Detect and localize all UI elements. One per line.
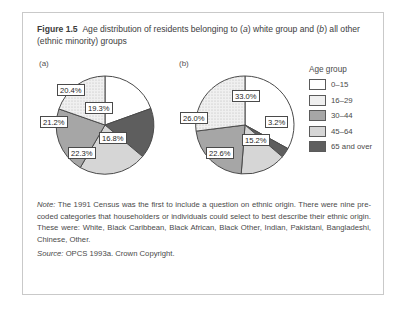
pie-b-value-65-over: 3.2%	[265, 116, 288, 128]
figure-number: Figure 1.5	[37, 24, 78, 34]
legend-item-45-64: 45–64	[309, 126, 385, 137]
pie-a-value-0-15: 19.3%	[85, 102, 113, 114]
note-text: The 1991 Census was the first to include…	[37, 200, 371, 244]
legend-title: Age group	[309, 65, 385, 74]
legend-swatch-16-29	[309, 95, 326, 106]
legend-item-16-29: 16–29	[309, 95, 385, 106]
pie-b-value-30-44: 22.6%	[206, 147, 234, 159]
figure-box: Figure 1.5 Age distribution of residents…	[22, 12, 384, 295]
figure-title-part1: Age distribution of residents belonging …	[82, 24, 243, 34]
pie-a-value-45-64: 22.3%	[68, 147, 96, 159]
pie-a-value-65-over: 16.8%	[99, 132, 127, 144]
figure-source: Source: OPCS 1993a. Crown Copyright.	[37, 248, 371, 260]
source-text: OPCS 1993a. Crown Copyright.	[64, 249, 175, 258]
legend-label-45-64: 45–64	[331, 127, 353, 136]
panel-label-b: (b)	[179, 59, 189, 68]
legend-swatch-0-15	[309, 79, 326, 90]
legend-swatch-45-64	[309, 126, 326, 137]
pie-a-value-16-29: 20.4%	[57, 84, 85, 96]
legend-item-0-15: 0–15	[309, 79, 385, 90]
legend-swatch-30-44	[309, 110, 326, 121]
legend-swatch-65-over	[309, 141, 326, 152]
legend-label-0-15: 0–15	[331, 80, 348, 89]
pie-a-value-30-44: 21.2%	[40, 116, 68, 128]
legend-item-30-44: 30–44	[309, 110, 385, 121]
note-prefix: Note:	[37, 200, 55, 209]
source-prefix: Source:	[37, 249, 64, 258]
figure-note: Note: The 1991 Census was the first to i…	[37, 199, 371, 245]
pie-b-value-16-29: 26.0%	[180, 112, 208, 124]
pie-b-value-45-64: 15.2%	[242, 134, 270, 146]
pie-b-value-0-15: 33.0%	[232, 90, 260, 102]
figure-title: Figure 1.5 Age distribution of residents…	[37, 23, 373, 48]
legend-item-65-over: 65 and over	[309, 141, 385, 152]
legend-label-30-44: 30–44	[331, 111, 353, 120]
legend: Age group 0–15 16–29 30–44 45–64 65 and …	[309, 65, 385, 157]
legend-label-16-29: 16–29	[331, 96, 353, 105]
figure-title-part2: ) white group and (	[248, 24, 320, 34]
legend-label-65-over: 65 and over	[331, 142, 372, 151]
panel-label-a: (a)	[39, 59, 49, 68]
